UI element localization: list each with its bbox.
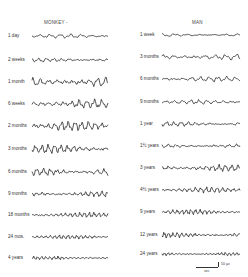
- scale-bar-amplitude-line: [218, 262, 219, 267]
- eeg-row-age-label: 4 years: [8, 255, 23, 260]
- eeg-waveform: [32, 165, 108, 179]
- eeg-row-age-label: 9 months: [8, 191, 27, 196]
- eeg-row: 2 weeks: [8, 53, 108, 67]
- eeg-waveform: [32, 119, 108, 133]
- eeg-waveform: [32, 230, 108, 244]
- eeg-row-age-label: 6 months: [8, 169, 27, 174]
- eeg-waveform: [32, 251, 108, 265]
- eeg-row: 9 months: [8, 187, 108, 201]
- eeg-waveform: [32, 29, 108, 43]
- eeg-row-age-label: 6 months: [140, 76, 159, 81]
- eeg-row-age-label: 1 year: [140, 121, 153, 126]
- eeg-waveform: [162, 183, 240, 197]
- eeg-waveform: [162, 50, 240, 64]
- eeg-row: 3 months: [140, 50, 240, 64]
- eeg-row-age-label: 12 years: [140, 232, 158, 237]
- eeg-row: 2 months: [8, 119, 108, 133]
- eeg-waveform: [32, 208, 108, 222]
- eeg-row-age-label: 1 week: [140, 32, 155, 37]
- eeg-row-age-label: 9 months: [140, 99, 159, 104]
- eeg-row-age-label: 1 month: [8, 79, 25, 84]
- eeg-row-age-label: 24 years: [140, 251, 158, 256]
- figure: MONKEY - MAN 1 day2 weeks1 month6 weeks2…: [0, 0, 248, 277]
- eeg-row-age-label: 1½ years: [140, 143, 159, 148]
- eeg-waveform: [32, 187, 108, 201]
- eeg-row: 24 mos.: [8, 230, 108, 244]
- eeg-row: 9 months: [140, 95, 240, 109]
- eeg-waveform: [162, 72, 240, 86]
- eeg-row-age-label: 3 months: [8, 146, 27, 151]
- eeg-waveform: [32, 53, 108, 67]
- scale-bar: 50 µv sec: [196, 262, 236, 272]
- eeg-row: 6 weeks: [8, 97, 108, 111]
- eeg-row: 4 years: [8, 251, 108, 265]
- eeg-waveform: [32, 75, 108, 89]
- eeg-row: 3 months: [8, 142, 108, 156]
- eeg-row-age-label: 3 years: [140, 165, 155, 170]
- eeg-waveform: [162, 228, 240, 242]
- eeg-row: 3 years: [140, 161, 240, 175]
- eeg-row: 1 month: [8, 75, 108, 89]
- eeg-waveform: [162, 161, 240, 175]
- eeg-row: 9 years: [140, 205, 240, 219]
- eeg-waveform: [162, 95, 240, 109]
- eeg-row-age-label: 1 day: [8, 33, 19, 38]
- eeg-waveform: [162, 247, 240, 261]
- scale-time-label: sec: [204, 269, 210, 273]
- eeg-row: 18 months: [8, 208, 108, 222]
- eeg-row-age-label: 2 months: [8, 123, 27, 128]
- eeg-waveform: [32, 142, 108, 156]
- eeg-waveform: [32, 97, 108, 111]
- eeg-row-age-label: 18 months: [8, 212, 29, 217]
- eeg-row-age-label: 9 years: [140, 209, 155, 214]
- monkey-panel-title: MONKEY -: [44, 20, 68, 25]
- eeg-row-age-label: 24 mos.: [8, 234, 24, 239]
- man-panel-title: MAN: [192, 20, 203, 25]
- scale-amplitude-label: 50 µv: [221, 262, 230, 266]
- eeg-row: 1 day: [8, 29, 108, 43]
- eeg-row-age-label: 6 weeks: [8, 101, 25, 106]
- eeg-row: 12 years: [140, 228, 240, 242]
- eeg-row-age-label: 4½ years: [140, 187, 159, 192]
- eeg-row: 6 months: [140, 72, 240, 86]
- eeg-row: 4½ years: [140, 183, 240, 197]
- eeg-waveform: [162, 205, 240, 219]
- eeg-row-age-label: 3 months: [140, 54, 159, 59]
- eeg-waveform: [162, 139, 240, 153]
- eeg-row: 1 week: [140, 28, 240, 42]
- eeg-row: 24 years: [140, 247, 240, 261]
- eeg-row: 1½ years: [140, 139, 240, 153]
- eeg-waveform: [162, 117, 240, 131]
- eeg-row: 1 year: [140, 117, 240, 131]
- eeg-waveform: [162, 28, 240, 42]
- eeg-row: 6 months: [8, 165, 108, 179]
- eeg-row-age-label: 2 weeks: [8, 57, 25, 62]
